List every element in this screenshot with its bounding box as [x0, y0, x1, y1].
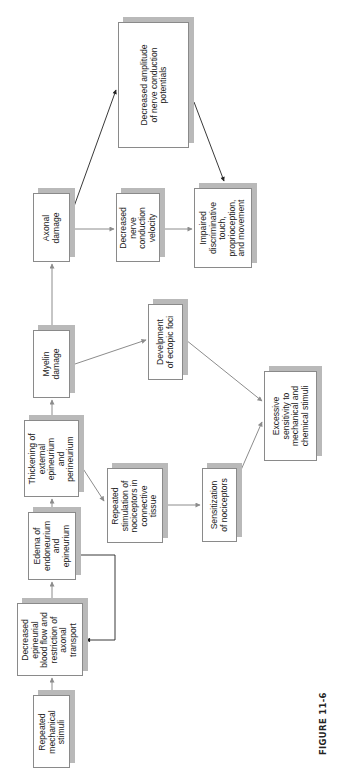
flowchart: Repeated mechanical stimuli Decreased ep…	[0, 0, 345, 770]
edge-ectopic-to-excessive	[186, 340, 262, 401]
node-label: Sensitization of nociceptors	[210, 478, 229, 532]
node-label: Decreased epineurial blood flow and rest…	[21, 612, 79, 667]
node-label: Myelin damage	[42, 348, 61, 379]
node-label: Decreased amplitude of nerve conduction …	[139, 44, 168, 125]
node-impaired-touch: Impaired discriminative touch, proprioce…	[194, 188, 252, 268]
edge-amplitude-to-impaired	[194, 102, 224, 181]
node-label: Thickening of external epineurium and pe…	[28, 433, 76, 484]
figure-caption: FIGURE 11-6	[318, 692, 328, 755]
node-thickening: Thickening of external epineurium and pe…	[24, 420, 79, 497]
node-myelin-damage: Myelin damage	[33, 330, 70, 398]
node-label: Repeated mechanical stimuli	[37, 710, 66, 753]
node-label: Impaired discriminative touch, proprioce…	[199, 200, 247, 257]
node-label: Repeated stimulation of nociceptors in c…	[111, 479, 159, 532]
edge-sensitization-to-excessive	[241, 422, 262, 470]
node-repeated-stimuli: Repeated mechanical stimuli	[33, 695, 70, 768]
node-label: Develpment of ectopic foci	[156, 316, 175, 369]
node-edema: Edema of endoneurium and epineurium	[28, 512, 76, 580]
node-decreased-blood-flow: Decreased epineurial blood flow and rest…	[17, 603, 83, 676]
node-nociceptor-stimulation: Repeated stimulation of nociceptors in c…	[107, 468, 163, 543]
node-label: Decreased nerve conduction velocity	[119, 207, 157, 249]
node-label: Axonal damage	[42, 212, 61, 243]
node-label: Edema of endoneurium and epineurium	[33, 521, 71, 571]
node-decreased-amplitude: Decreased amplitude of nerve conduction …	[118, 22, 189, 148]
edge-axonal-to-amplitude	[72, 90, 116, 212]
node-decreased-velocity: Decreased nerve conduction velocity	[116, 193, 160, 262]
edge-myelin-to-ectopic	[72, 340, 146, 365]
node-ectopic-foci: Develpment of ectopic foci	[148, 304, 183, 380]
node-label: Excessive sensitivity to mechanical and …	[271, 386, 309, 447]
node-axonal-damage: Axonal damage	[33, 193, 70, 262]
node-sensitization: Sensitization of nociceptors	[202, 468, 237, 542]
node-excessive-sensitivity: Excessive sensitivity to mechanical and …	[264, 371, 317, 461]
